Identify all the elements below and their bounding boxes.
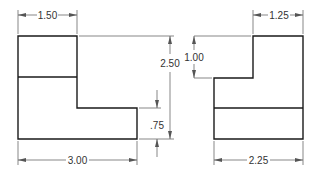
technical-drawing: 1.50 2.50 .75 3.00 — [0, 0, 323, 172]
dim-label-1-00: 1.00 — [184, 52, 204, 63]
dim-label-3-00: 3.00 — [68, 155, 88, 166]
dim-front-top-width: 1.50 — [18, 10, 77, 34]
dim-side-step-height: 1.00 — [184, 36, 251, 78]
dim-front-overall-width: 3.00 — [18, 141, 137, 166]
dim-label-2-50: 2.50 — [160, 58, 180, 69]
dim-label-0-75: .75 — [150, 120, 164, 131]
side-view — [214, 36, 303, 139]
dim-label-2-25: 2.25 — [249, 155, 269, 166]
dim-label-1-25: 1.25 — [269, 10, 289, 21]
dim-label-1-50: 1.50 — [38, 10, 58, 21]
front-view — [18, 36, 137, 139]
dim-side-top-width: 1.25 — [253, 10, 303, 34]
dim-front-step-height: .75 — [150, 90, 164, 157]
front-view-outline — [18, 36, 137, 139]
side-view-outline — [214, 36, 303, 139]
dim-side-overall-width: 2.25 — [214, 141, 303, 166]
